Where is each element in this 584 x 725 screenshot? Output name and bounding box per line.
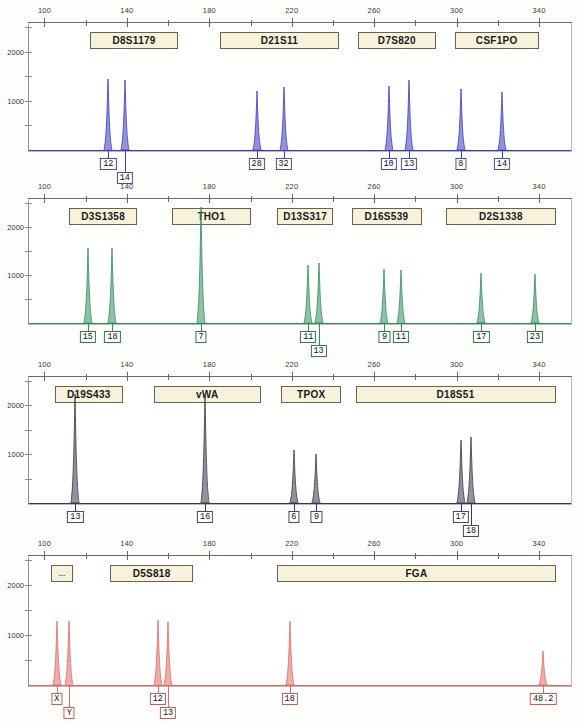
size-axis-tick-major (127, 551, 128, 560)
peak-23[interactable] (530, 274, 539, 323)
allele-call-9[interactable]: 9 (311, 511, 322, 523)
size-axis-tick-major (539, 551, 540, 560)
allele-call-X[interactable]: X (51, 693, 62, 705)
allele-call-9[interactable]: 9 (379, 331, 390, 343)
allele-call-6[interactable]: 6 (288, 511, 299, 523)
peak-28[interactable] (252, 91, 261, 150)
peak-14[interactable] (120, 80, 129, 150)
peak-18[interactable] (108, 248, 117, 323)
peak-16[interactable] (201, 394, 210, 503)
allele-call-11[interactable]: 11 (393, 331, 409, 343)
allele-call-13[interactable]: 13 (401, 158, 417, 170)
marker-bin-D7S820[interactable]: D7S820 (358, 32, 436, 49)
allele-call-28[interactable]: 28 (249, 158, 265, 170)
allele-call-Y[interactable]: Y (64, 707, 75, 719)
peak-13[interactable] (71, 394, 80, 503)
allele-call-48dot2[interactable]: 48.2 (530, 693, 556, 705)
peak-9[interactable] (312, 454, 321, 503)
marker-bin-D21S11[interactable]: D21S11 (220, 32, 340, 49)
marker-bin-D19S433[interactable]: D19S433 (55, 386, 123, 403)
peak-13[interactable] (314, 263, 323, 323)
size-axis-tick-minor (333, 374, 334, 380)
peak-18[interactable] (467, 437, 476, 503)
marker-bin-FGA[interactable]: FGA (277, 565, 555, 582)
peak-17[interactable] (477, 273, 486, 323)
size-axis-label: 220 (285, 539, 298, 548)
allele-call-15[interactable]: 15 (80, 331, 96, 343)
marker-bin-TPOX[interactable]: TPOX (281, 386, 341, 403)
marker-bin-D5S818[interactable]: D5S818 (110, 565, 192, 582)
size-axis-tick-major (374, 194, 375, 203)
peak-12[interactable] (153, 620, 162, 686)
dye-channel-panel-2: 10014018022026030034020001000D3S1358THO1… (0, 178, 584, 355)
marker-bin-D18S51[interactable]: D18S51 (356, 386, 556, 403)
allele-call-7[interactable]: 7 (196, 331, 207, 343)
allele-call-23[interactable]: 23 (527, 331, 543, 343)
marker-bin-THO1[interactable]: THO1 (172, 208, 250, 225)
peak-48.2[interactable] (539, 651, 548, 685)
marker-bin-D16S539[interactable]: D16S539 (352, 208, 422, 225)
size-axis-label: 340 (532, 539, 545, 548)
allele-call-17[interactable]: 17 (453, 511, 469, 523)
size-axis-line (28, 198, 572, 199)
size-axis-tick-minor (333, 196, 334, 202)
allele-call-13[interactable]: 13 (160, 707, 176, 719)
allele-call-18[interactable]: 18 (104, 331, 120, 343)
marker-bin-dotdotdot[interactable]: ... (51, 565, 74, 582)
allele-call-17[interactable]: 17 (473, 331, 489, 343)
peak-13[interactable] (164, 622, 173, 686)
peak-10[interactable] (384, 86, 393, 150)
peak-6[interactable] (289, 450, 298, 503)
allele-leader-line (384, 323, 385, 331)
peak-11[interactable] (396, 270, 405, 323)
rfu-axis-label: 2000 (0, 47, 24, 56)
size-axis-tick-major (44, 194, 45, 203)
size-axis-label: 100 (38, 182, 51, 191)
marker-bin-CSF1PO[interactable]: CSF1PO (455, 32, 539, 49)
dye-channel-panel-3: 10014018022026030034020001000D19S433vWAT… (0, 355, 584, 533)
peak-8[interactable] (456, 89, 465, 150)
rfu-axis-tick (25, 27, 32, 28)
marker-bin-D2S1338[interactable]: D2S1338 (446, 208, 555, 225)
allele-call-10[interactable]: 10 (380, 158, 396, 170)
allele-call-16[interactable]: 16 (197, 511, 213, 523)
allele-call-32[interactable]: 32 (275, 158, 291, 170)
peak-14[interactable] (497, 92, 506, 150)
allele-call-14[interactable]: 14 (494, 158, 510, 170)
marker-bin-D3S1358[interactable]: D3S1358 (69, 208, 137, 225)
allele-leader-line (481, 323, 482, 331)
rfu-axis-tick (25, 125, 32, 126)
rfu-axis-tick (25, 405, 32, 406)
allele-call-12[interactable]: 12 (100, 158, 116, 170)
allele-call-13[interactable]: 13 (67, 511, 83, 523)
size-axis-label: 220 (285, 6, 298, 15)
peak-11[interactable] (304, 265, 313, 323)
size-axis-label: 180 (203, 360, 216, 369)
marker-bin-D8S1179[interactable]: D8S1179 (90, 32, 179, 49)
allele-leader-line (389, 150, 390, 158)
peak-17[interactable] (456, 440, 465, 503)
size-axis-label: 340 (532, 182, 545, 191)
allele-call-8[interactable]: 8 (455, 158, 466, 170)
peak-13[interactable] (405, 80, 414, 150)
rfu-axis-tick (25, 101, 32, 102)
size-axis-tick-major (44, 18, 45, 27)
peak-12[interactable] (104, 79, 113, 150)
size-axis-label: 300 (450, 6, 463, 15)
size-axis-tick-minor (333, 20, 334, 26)
peak-32[interactable] (279, 87, 288, 151)
allele-call-12[interactable]: 12 (150, 693, 166, 705)
peak-Y[interactable] (65, 621, 74, 686)
peak-X[interactable] (52, 621, 61, 685)
peak-9[interactable] (380, 269, 389, 323)
allele-leader-line (502, 150, 503, 158)
allele-call-18[interactable]: 18 (282, 693, 298, 705)
allele-leader-line (535, 323, 536, 331)
marker-bin-D13S317[interactable]: D13S317 (277, 208, 333, 225)
rfu-axis-line (28, 202, 29, 324)
peak-18[interactable] (285, 621, 294, 685)
allele-call-11[interactable]: 11 (300, 331, 316, 343)
peak-7[interactable] (197, 207, 206, 323)
peak-15[interactable] (83, 248, 92, 323)
size-axis-tick-minor (86, 196, 87, 202)
